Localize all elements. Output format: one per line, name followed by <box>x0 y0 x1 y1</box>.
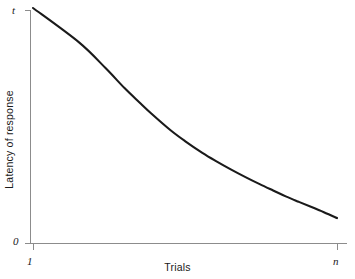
x-axis-title: Trials <box>0 262 355 273</box>
y-axis-title: Latency of response <box>4 0 20 279</box>
latency-curve <box>33 8 337 218</box>
chart-figure: t 0 1 n Trials Latency of response <box>0 0 355 279</box>
plot-area <box>0 0 355 279</box>
